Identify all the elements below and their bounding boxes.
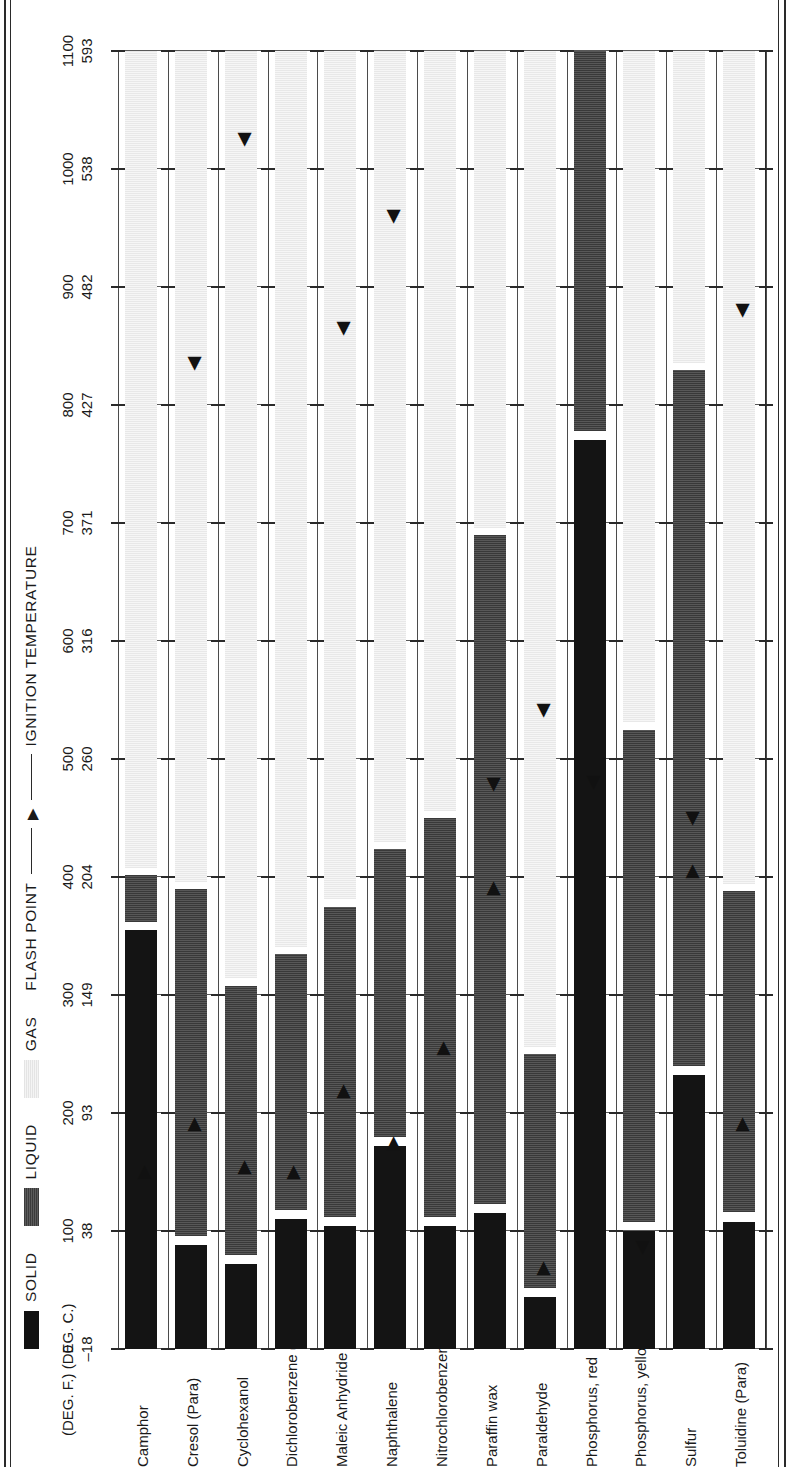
axis-tick (310, 994, 324, 996)
axis-tick (659, 758, 673, 760)
x-tick-fahrenheit: 1000 (58, 152, 77, 185)
bar-row[interactable]: ▶◀ (666, 51, 716, 1349)
flash-point-marker-icon: ▶ (483, 882, 500, 895)
bar-segment-solid (324, 1226, 356, 1349)
axis-tick (759, 522, 773, 524)
x-tick-fahrenheit: 900 (58, 274, 77, 299)
x-tick-celsius: 427 (77, 392, 96, 417)
axis-tick (609, 1230, 623, 1232)
legend-label-liquid: LIQUID (22, 1124, 40, 1179)
bar-segment-gas (125, 51, 157, 868)
bar-row[interactable]: ▶◀ (467, 51, 517, 1349)
x-tick-fahrenheit: 800 (58, 392, 77, 417)
bar-row[interactable]: ◀ (567, 51, 617, 1349)
axis-tick (709, 50, 723, 52)
bar-segment-liquid (524, 1054, 556, 1288)
bar-segment-liquid (374, 849, 406, 1137)
bar-row[interactable]: ▶◀ (367, 51, 417, 1349)
bar-row[interactable]: ▶◀ (168, 51, 218, 1349)
bar-segment-gas (175, 51, 207, 882)
axis-tick (659, 1348, 673, 1350)
axis-tick (609, 522, 623, 524)
axis-tick (211, 522, 225, 524)
x-tick-label: 800427 (58, 392, 96, 417)
flash-point-marker-icon: ▶ (24, 808, 39, 820)
axis-tick (161, 286, 175, 288)
bottom-rule-outer (784, 0, 786, 1467)
axis-tick (410, 876, 424, 878)
x-tick-label: 500260 (58, 746, 96, 771)
axis-tick (759, 50, 773, 52)
bar-segment-solid (723, 1222, 755, 1349)
category-label: Dichlorobenzene (Para) (284, 1355, 300, 1467)
bar-row[interactable]: ▶◀ (218, 51, 268, 1349)
category-label: Toluidine (Para) (733, 1355, 749, 1467)
axis-tick (460, 50, 474, 52)
bar-row[interactable]: ▶◀ (517, 51, 567, 1349)
axis-tick (360, 1112, 374, 1114)
axis-tick (360, 876, 374, 878)
x-tick-celsius: 316 (77, 628, 96, 653)
x-tick-label: 600316 (58, 628, 96, 653)
axis-tick (659, 640, 673, 642)
axis-tick (211, 1230, 225, 1232)
axis-tick (659, 1112, 673, 1114)
x-tick-fahrenheit: 200 (58, 1100, 77, 1125)
ignition-temperature-marker-icon: ◀ (633, 1241, 650, 1254)
ignition-temperature-marker-icon: ◀ (483, 778, 500, 791)
axis-tick (211, 994, 225, 996)
legend-label-gas: GAS (22, 1017, 40, 1052)
flash-point-marker-icon: ▶ (433, 1042, 450, 1055)
ignition-temperature-marker-icon: ◀ (334, 322, 351, 335)
flash-point-marker-icon: ▶ (384, 1137, 401, 1150)
lane-separator (766, 51, 767, 1349)
axis-tick (510, 758, 524, 760)
axis-tick (759, 758, 773, 760)
bar-row[interactable]: ▶◀ (317, 51, 367, 1349)
bar-segment-gas (673, 51, 705, 363)
bar-row[interactable]: ▶ (417, 51, 467, 1349)
axis-tick (310, 1230, 324, 1232)
bar-row[interactable]: ▶ (118, 51, 168, 1349)
bar-segment-solid (424, 1226, 456, 1349)
bar-segment-solid (125, 930, 157, 1349)
axis-tick (261, 758, 275, 760)
top-rule-outer (4, 0, 6, 1467)
axis-tick (560, 758, 574, 760)
legend-item-gas: GAS (22, 1017, 40, 1099)
plot-area: ▶▶◀▶◀▶▶◀▶◀▶▶◀▶◀◀◀▶◀▶◀ (118, 51, 766, 1349)
axis-tick (111, 994, 125, 996)
chart-legend: SOLID LIQUID GAS FLASH POINT ▶ IGNITION … (18, 520, 44, 1349)
x-tick-label: 300149 (58, 982, 96, 1007)
axis-tick (261, 1112, 275, 1114)
axis-tick (161, 876, 175, 878)
axis-tick (659, 876, 673, 878)
x-tick-celsius: –18 (77, 1336, 96, 1361)
axis-tick (460, 994, 474, 996)
top-rule-inner (10, 0, 11, 1467)
legend-rule-flash-point (31, 828, 32, 874)
category-label: Cresol (Para) (185, 1355, 201, 1467)
bar-segment-gas (524, 51, 556, 1047)
axis-tick (161, 522, 175, 524)
axis-tick (709, 286, 723, 288)
bar-segment-liquid (474, 535, 506, 1204)
bar-row[interactable]: ▶ (268, 51, 318, 1349)
bar-row[interactable]: ◀ (616, 51, 666, 1349)
x-tick-fahrenheit: 300 (58, 982, 77, 1007)
legend-label-ignition: IGNITION TEMPERATURE (22, 546, 40, 747)
x-tick-celsius: 38 (77, 1218, 96, 1243)
axis-tick (211, 1112, 225, 1114)
axis-tick (261, 50, 275, 52)
axis-tick (609, 758, 623, 760)
x-tick-celsius: 371 (77, 510, 96, 535)
bar-row[interactable]: ▶◀ (716, 51, 766, 1349)
axis-tick (560, 522, 574, 524)
axis-tick (360, 50, 374, 52)
axis-tick (111, 50, 125, 52)
x-tick-fahrenheit: 600 (58, 628, 77, 653)
axis-tick (510, 994, 524, 996)
axis-tick (560, 994, 574, 996)
axis-tick (211, 758, 225, 760)
x-axis-tick-labels: 0–18100382009330014940020450026060031670… (58, 51, 114, 1349)
